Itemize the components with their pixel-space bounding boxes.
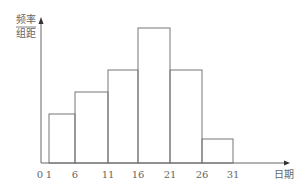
- histogram-bar-26-31: [202, 139, 233, 163]
- x-tick-label: 21: [164, 170, 177, 180]
- x-tick-label: 11: [102, 170, 115, 180]
- x-tick-label: 6: [72, 170, 78, 180]
- histogram-bar-16-21: [138, 28, 170, 163]
- histogram-bar-21-26: [170, 70, 202, 163]
- histogram-plot: [0, 0, 305, 190]
- x-tick-label: 26: [196, 170, 209, 180]
- y-axis-arrow-icon: [39, 17, 44, 24]
- ylabel-denominator: 组距: [16, 29, 36, 39]
- x-tick-label: 16: [132, 170, 145, 180]
- histogram-bar-1-6: [49, 114, 75, 163]
- histogram-bars: [49, 28, 233, 163]
- ylabel-numerator: 频率: [16, 15, 36, 25]
- x-axis-arrow-icon: [284, 161, 290, 166]
- x-axis-label: 日期: [274, 170, 294, 180]
- x-tick-label: 1: [46, 170, 52, 180]
- histogram-bar-6-11: [75, 92, 108, 163]
- histogram-bar-11-16: [108, 70, 138, 163]
- x-tick-label: 31: [227, 170, 240, 180]
- origin-label: 0: [37, 170, 43, 180]
